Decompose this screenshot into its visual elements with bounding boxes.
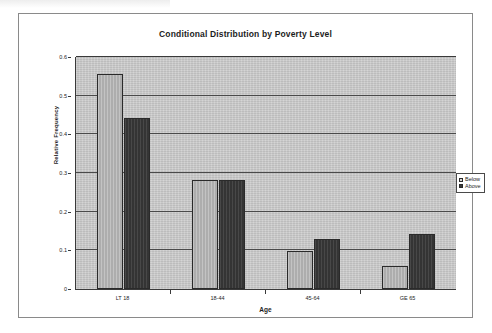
legend-swatch-icon [459,178,463,182]
x-tick-label: 45-64 [305,295,319,301]
y-tick-label: 0.6 [59,54,67,60]
y-tick-mark [68,173,71,174]
y-tick-mark [68,96,71,97]
x-axis-title: Age [75,306,456,313]
bar-above-18-44 [219,180,245,289]
legend-swatch-icon [459,184,463,188]
y-tick-label: 0.5 [59,93,67,99]
bar-above-45-64 [314,239,340,289]
x-tick-mark [360,290,361,294]
x-tick-label: 18-44 [210,295,224,301]
y-tick-label: 0.4 [59,131,67,137]
chart-legend[interactable]: BelowAbove [456,173,485,193]
bar-below-18-44 [192,180,218,289]
bar-above-ge-65 [409,234,435,289]
legend-item-below[interactable]: Below [459,177,481,183]
y-tick-label: 0.1 [59,247,67,253]
plot-area [75,57,456,290]
y-tick-label: 0.2 [59,209,67,215]
y-tick-mark [68,289,71,290]
y-tick-mark [68,212,71,213]
legend-label: Above [465,184,481,190]
bar-below-lt-18 [97,74,123,289]
x-tick-mark [265,290,266,294]
y-tick-mark [68,57,71,58]
y-tick-label: 0 [64,286,67,292]
gridline [76,95,456,96]
bar-below-ge-65 [382,266,408,289]
legend-label: Below [465,177,480,183]
bar-below-45-64 [287,251,313,289]
y-axis-ticks: 00.10.20.30.40.50.6 [19,57,71,290]
legend-item-above[interactable]: Above [459,184,481,190]
gridline [76,56,456,57]
y-tick-mark [68,134,71,135]
bar-above-lt-18 [124,118,150,289]
chart-title: Conditional Distribution by Poverty Leve… [19,29,472,39]
chart-frame: Conditional Distribution by Poverty Leve… [18,13,473,318]
x-tick-mark [170,290,171,294]
page-scan-smudge [0,0,170,8]
x-tick-label: GE 65 [400,295,416,301]
x-tick-label: LT 18 [116,295,130,301]
y-tick-label: 0.3 [59,170,67,176]
y-tick-mark [68,250,71,251]
